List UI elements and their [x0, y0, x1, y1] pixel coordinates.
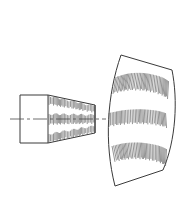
drawing-canvas [0, 0, 189, 219]
technical-drawing [0, 0, 189, 219]
